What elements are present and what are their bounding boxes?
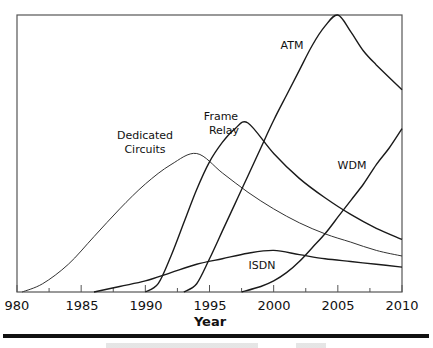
tick-label-2000: 2000 bbox=[257, 298, 290, 313]
label-atm: ATM bbox=[281, 39, 304, 52]
tick-label-1990: 1990 bbox=[129, 298, 162, 313]
plot-frame bbox=[17, 15, 402, 292]
tick-label-2005: 2005 bbox=[321, 298, 354, 313]
label-isdn: ISDN bbox=[249, 259, 276, 272]
label-frame-relay-line1: Frame bbox=[204, 110, 239, 123]
label-frame-relay-line2: Relay bbox=[209, 124, 240, 137]
tick-label-1985: 1985 bbox=[65, 298, 98, 313]
tick-label-2010: 2010 bbox=[385, 298, 418, 313]
technology-adoption-chart: 980 1985 1990 1995 2000 2005 2010 Year D… bbox=[0, 0, 433, 348]
label-wdm: WDM bbox=[338, 159, 367, 172]
series-curves bbox=[22, 15, 402, 292]
curve-atm bbox=[184, 15, 402, 292]
tick-label-1980: 980 bbox=[5, 298, 30, 313]
cropped-caption-text bbox=[30, 343, 410, 348]
x-axis-title: Year bbox=[193, 314, 227, 329]
label-dedicated-line2: Circuits bbox=[124, 143, 165, 156]
label-dedicated-line1: Dedicated bbox=[117, 129, 173, 142]
curve-dedicated-circuits bbox=[22, 153, 402, 292]
x-axis-tick-labels: 980 1985 1990 1995 2000 2005 2010 bbox=[5, 298, 419, 313]
divider-rule bbox=[3, 334, 429, 338]
tick-label-1995: 1995 bbox=[193, 298, 226, 313]
x-axis-ticks bbox=[17, 285, 402, 292]
